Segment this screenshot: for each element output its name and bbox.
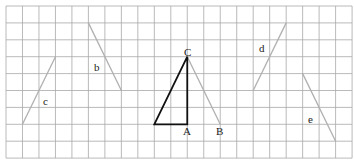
segment-label-b: b <box>94 61 100 73</box>
segment-label-d: d <box>259 42 265 54</box>
segment-label-e: e <box>308 113 313 125</box>
point-label-a: A <box>183 125 191 137</box>
diagram-svg: bcdeCAB <box>0 0 354 161</box>
point-label-b: B <box>216 125 223 137</box>
grid-diagram: bcdeCAB <box>0 0 354 161</box>
grid-lines <box>6 6 352 158</box>
labels: bcdeCAB <box>43 42 313 137</box>
point-label-c: C <box>184 46 191 58</box>
segment-label-c: c <box>43 95 48 107</box>
